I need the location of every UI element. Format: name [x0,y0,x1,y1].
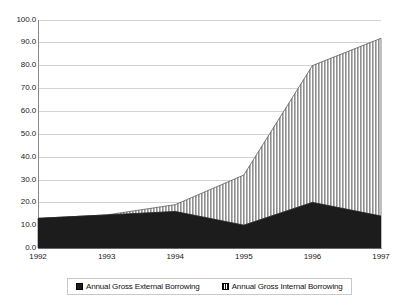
legend-label-external: Annual Gross External Borrowing [86,283,200,291]
stacked-area-chart: 100.0 90.0 80.0 70.0 60.0 50.0 40.0 30.0… [0,0,410,299]
series-plot [0,0,410,299]
x-tick-label: 1995 [224,252,264,261]
legend-item-internal: Annual Gross Internal Borrowing [222,283,343,291]
x-tick-label: 1994 [155,252,195,261]
x-tick-label: 1992 [18,252,58,261]
chart-legend: Annual Gross External Borrowing Annual G… [67,278,352,295]
legend-label-internal: Annual Gross Internal Borrowing [232,283,343,291]
x-tick-label: 1997 [361,252,401,261]
area-internal-borrowing [38,38,381,225]
x-tick-label: 1993 [87,252,127,261]
legend-item-external: Annual Gross External Borrowing [76,283,200,291]
solid-black-swatch-icon [76,283,83,290]
x-tick-label: 1996 [292,252,332,261]
hatched-swatch-icon [222,283,229,290]
